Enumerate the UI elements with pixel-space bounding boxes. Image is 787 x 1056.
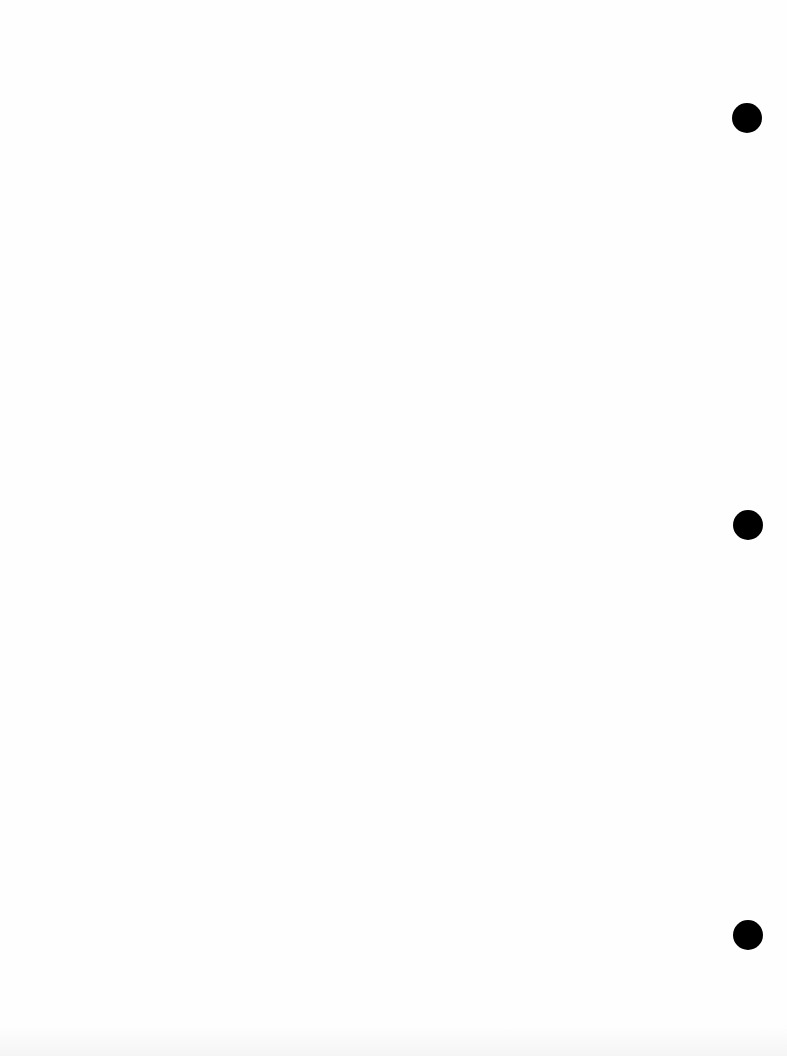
blank-page — [0, 0, 787, 1056]
punch-hole-middle — [733, 510, 763, 540]
punch-hole-bottom — [733, 920, 763, 950]
punch-hole-top — [732, 103, 762, 133]
scan-edge-shade — [0, 1026, 787, 1056]
